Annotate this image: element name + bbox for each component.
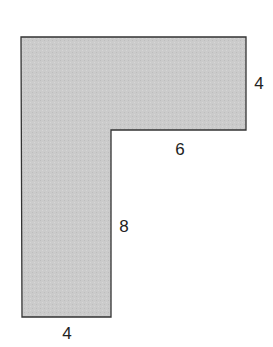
label-right-height: 4 bbox=[254, 75, 263, 92]
l-shape-diagram bbox=[0, 0, 273, 347]
label-inner-top-width: 6 bbox=[175, 141, 184, 158]
label-inner-height: 8 bbox=[119, 218, 128, 235]
l-shape bbox=[21, 37, 246, 317]
label-bottom-width: 4 bbox=[62, 325, 71, 342]
